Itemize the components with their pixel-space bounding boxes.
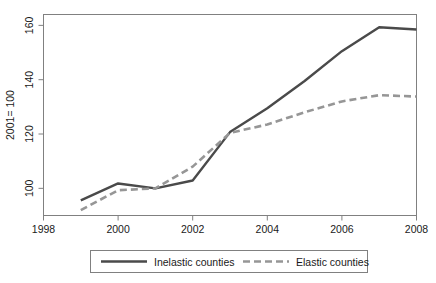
x-tick-label: 2002 bbox=[181, 223, 205, 235]
x-tick-label: 2004 bbox=[256, 223, 280, 235]
line-chart-figure: 100120140160 199820002002200420062008 20… bbox=[0, 0, 436, 283]
x-tick-label: 1998 bbox=[32, 223, 56, 235]
x-tick-label: 2008 bbox=[405, 223, 429, 235]
legend-label-elastic: Elastic counties bbox=[296, 256, 369, 268]
x-tick-label: 2000 bbox=[106, 223, 130, 235]
x-tick-label: 2006 bbox=[330, 223, 354, 235]
y-tick-label: 100 bbox=[23, 179, 35, 197]
figure-background bbox=[0, 0, 436, 283]
chart-legend: Inelastic counties Elastic counties bbox=[91, 251, 369, 273]
y-tick-label: 140 bbox=[23, 71, 35, 89]
y-tick-label: 120 bbox=[23, 125, 35, 143]
y-axis-title: 2001= 100 bbox=[4, 90, 16, 140]
y-tick-label: 160 bbox=[23, 16, 35, 34]
legend-label-inelastic: Inelastic counties bbox=[154, 256, 235, 268]
